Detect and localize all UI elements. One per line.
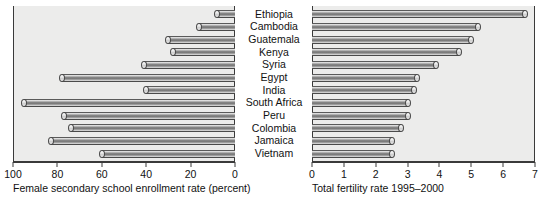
bar [312,61,436,69]
country-label: Syria [236,60,312,69]
axis-tick-label: 6 [500,168,506,180]
axis-tick-label: 2 [373,168,379,180]
axis-tick-label: 5 [468,168,474,180]
bar-row [13,136,235,145]
bar [64,112,235,120]
bar-row [13,98,235,107]
country-label: Egypt [236,73,312,82]
bar-row [312,73,535,82]
bar-row [312,124,535,133]
bar [24,99,235,107]
bar-row [13,124,235,133]
bar-row [312,98,535,107]
bar-row [312,86,535,95]
axis-tick [13,162,14,167]
axis-tick [407,162,408,167]
axis-tick-label: 0 [309,168,315,180]
axis-tick [101,162,102,167]
paired-bar-chart-figure: 100806040200 Female secondary school enr… [0,0,548,215]
axis-tick [503,162,504,167]
bar [312,48,459,56]
country-label: Vietnam [236,149,312,158]
axis-tick-label: 100 [4,168,22,180]
bar-row [13,10,235,19]
bar [102,150,235,158]
axis-tick-label: 80 [52,168,64,180]
bar [62,74,235,82]
bar [146,86,235,94]
bar [199,23,235,31]
axis-tick-label: 4 [437,168,443,180]
bar-row [13,48,235,57]
country-label: Cambodia [236,22,312,31]
left-axis-line [13,162,235,163]
axis-tick [235,162,236,167]
right-x-axis: 01234567 [312,162,535,182]
bar-row [13,111,235,120]
axis-tick [471,162,472,167]
bar-row [13,22,235,31]
bar [217,10,235,18]
axis-tick [375,162,376,167]
country-label: Jamaica [236,136,312,145]
right-bar-rows [312,6,535,162]
bar [312,74,417,82]
bar [312,99,408,107]
bar-row [312,136,535,145]
axis-tick-label: 60 [96,168,108,180]
bar-row [312,10,535,19]
bar [312,36,471,44]
bar-row [312,149,535,158]
axis-tick [343,162,344,167]
country-label: Guatemala [236,35,312,44]
right-axis-caption: Total fertility rate 1995–2000 [312,182,548,195]
bar [312,137,392,145]
axis-tick-label: 1 [341,168,347,180]
axis-tick-label: 40 [140,168,152,180]
country-label: South Africa [236,98,312,107]
bar [173,48,235,56]
bar [312,112,408,120]
bar-row [13,86,235,95]
country-label-column: EthiopiaCambodiaGuatemalaKenyaSyriaEgypt… [236,6,312,162]
bar-row [312,48,535,57]
right-chart-panel [312,6,535,162]
axis-tick [439,162,440,167]
bar [51,137,235,145]
bar [312,124,401,132]
bar-row [312,60,535,69]
bar [144,61,235,69]
bar-row [13,73,235,82]
bar-row [312,111,535,120]
axis-tick-label: 3 [405,168,411,180]
axis-tick [146,162,147,167]
bar [168,36,235,44]
bar [312,150,392,158]
country-label: Colombia [236,124,312,133]
left-chart-panel [13,6,235,162]
left-x-axis: 100806040200 [13,162,235,182]
bar [312,23,478,31]
bar-row [312,22,535,31]
axis-tick-label: 20 [185,168,197,180]
bar-row [13,149,235,158]
axis-tick [190,162,191,167]
left-axis-caption: Female secondary school enrollment rate … [13,182,245,195]
country-label: Peru [236,111,312,120]
left-bar-rows [13,6,235,162]
bar [312,10,525,18]
right-axis-line [312,162,535,163]
country-label: Kenya [236,48,312,57]
country-label: Ethiopia [236,10,312,19]
country-label: India [236,86,312,95]
axis-tick [57,162,58,167]
axis-tick [312,162,313,167]
bar [312,86,414,94]
axis-tick-label: 0 [232,168,238,180]
bar-row [13,60,235,69]
bar-row [312,35,535,44]
axis-tick [535,162,536,167]
axis-tick-label: 7 [532,168,538,180]
bar [71,124,235,132]
bar-row [13,35,235,44]
